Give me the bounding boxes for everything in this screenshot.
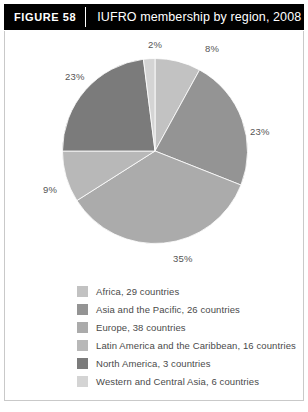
- legend-swatch: [77, 304, 88, 315]
- chart-legend: Africa, 29 countriesAsia and the Pacific…: [77, 283, 302, 391]
- legend-swatch: [77, 358, 88, 369]
- figure-header: FIGURE 58 IUFRO membership by region, 20…: [4, 4, 304, 30]
- legend-item: Asia and the Pacific, 26 countries: [77, 301, 302, 318]
- legend-item: Africa, 29 countries: [77, 283, 302, 300]
- legend-label: Europe, 38 countries: [96, 322, 186, 333]
- figure-body: 2%8%23%23%9%35% Africa, 29 countriesAsia…: [4, 31, 304, 401]
- legend-label: Africa, 29 countries: [96, 286, 179, 297]
- legend-swatch: [77, 322, 88, 333]
- pie-slice-percent: 9%: [43, 184, 57, 195]
- pie-slice-percent: 35%: [173, 253, 193, 264]
- legend-label: Asia and the Pacific, 26 countries: [96, 304, 240, 315]
- legend-label: Latin America and the Caribbean, 16 coun…: [96, 340, 296, 351]
- figure-title: IUFRO membership by region, 2008: [86, 10, 301, 24]
- pie-slice-percent: 2%: [148, 39, 162, 50]
- legend-item: North America, 3 countries: [77, 355, 302, 372]
- figure-card: FIGURE 58 IUFRO membership by region, 20…: [0, 0, 308, 412]
- pie-slice-percent: 23%: [250, 126, 270, 137]
- pie-chart: 2%8%23%23%9%35%: [5, 31, 305, 263]
- legend-swatch: [77, 376, 88, 387]
- pie-chart-svg: [62, 58, 248, 244]
- legend-item: Europe, 38 countries: [77, 319, 302, 336]
- figure-number: FIGURE 58: [4, 11, 85, 23]
- legend-label: North America, 3 countries: [96, 358, 211, 369]
- pie-slice-percent: 23%: [65, 71, 85, 82]
- pie-slice-percent: 8%: [205, 43, 219, 54]
- legend-item: Western and Central Asia, 6 countries: [77, 373, 302, 390]
- legend-label: Western and Central Asia, 6 countries: [96, 376, 259, 387]
- legend-swatch: [77, 286, 88, 297]
- legend-swatch: [77, 340, 88, 351]
- legend-item: Latin America and the Caribbean, 16 coun…: [77, 337, 302, 354]
